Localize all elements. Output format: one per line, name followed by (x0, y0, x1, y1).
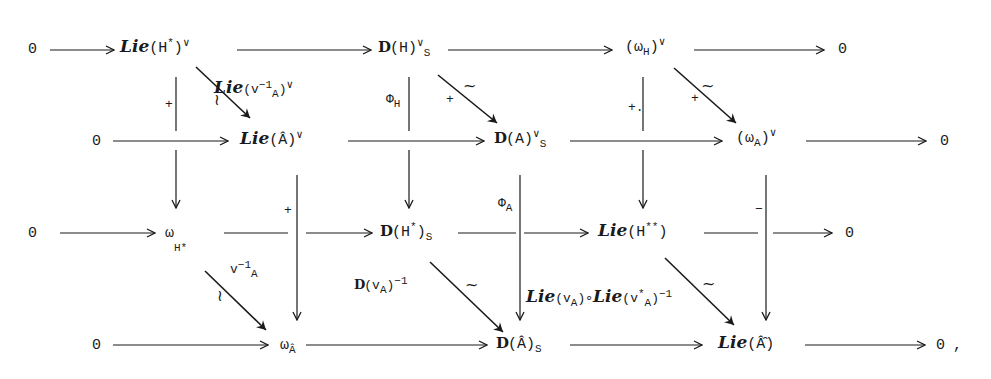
node-r2-zero-left: 0 (92, 134, 101, 149)
label-plus-diag-omegaH-omegaA: + (691, 92, 699, 105)
node-r3-lie-hstarstar: Lie(H**) (598, 222, 667, 240)
node-r1-zero-left: 0 (28, 42, 37, 57)
node-r4-omega-ahat: ωÂ (280, 338, 296, 353)
node-r3-omega-hstar: ωH* (165, 226, 187, 241)
label-plus-vert-lieHstar: + (165, 98, 173, 111)
node-r1-zero-right: 0 (838, 42, 847, 57)
node-r3-D-hstar-S: D(H*)S (380, 224, 432, 240)
label-vA-inverse: v−1A (230, 263, 258, 276)
label-plus-vert-omegaH: +. (628, 101, 644, 114)
node-r4-lie-ahathat: Lie(Â̂) (718, 334, 774, 352)
iso-tilde-icon: ~ (212, 289, 228, 302)
iso-tilde-icon: ~ (702, 276, 715, 292)
label-phi-A: ΦA (498, 197, 512, 210)
iso-tilde-icon: ~ (209, 93, 225, 106)
label-D-vA-inverse: D(vA)−1 (354, 278, 408, 292)
arrow-d-DHstar-to-DAhat (430, 262, 503, 332)
iso-tilde-icon: ~ (701, 78, 714, 94)
label-plus-diag-DH-DA: + (446, 93, 454, 106)
iso-tilde-icon: ~ (465, 277, 478, 293)
node-r4-D-ahat-S: D(Â)S (496, 336, 542, 352)
node-r1-D-H-dual-S: D(H)∨S (378, 40, 430, 56)
label-composite-lie-vA-lie-vAstar-inverse: Lie(vA)∘Lie(v*A)−1 (526, 288, 672, 305)
node-r1-omegaH-dual: (ωH)∨ (625, 40, 665, 55)
label-phi-H: ΦH (386, 93, 400, 106)
node-r3-zero-left: 0 (28, 226, 37, 241)
node-r2-omegaA-dual: (ωA)∨ (736, 131, 776, 146)
node-r2-lie-ahat-dual: Lie(Â)∨ (240, 130, 303, 148)
label-plus-vert-lieAhat: + (284, 204, 292, 217)
commutative-diagram: 0 Lie(H*)∨ D(H)∨S (ωH)∨ 0 0 Lie(Â)∨ D(A)… (0, 0, 991, 379)
iso-tilde-icon: ~ (463, 78, 476, 94)
node-r4-zero-right: 0, (936, 338, 962, 353)
label-minus-vert-omegaA: − (755, 203, 763, 216)
node-r2-D-A-dual-S: D(A)∨S (494, 131, 546, 147)
node-r3-zero-right: 0 (845, 226, 854, 241)
node-r1-lie-hstar-dual: Lie(H*)∨ (120, 38, 190, 56)
node-r4-zero-left: 0 (92, 338, 101, 353)
arrow-d-lieHss-to-lieAhathat (665, 258, 734, 325)
node-r2-zero-right: 0 (940, 134, 949, 149)
